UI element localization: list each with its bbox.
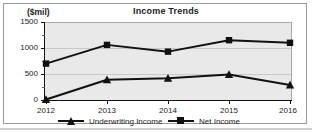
y-tick-mark-1000 xyxy=(41,48,45,49)
bottom-rule xyxy=(0,128,312,130)
chart-screenshot: Income Trends ($mil) 1500 1000 500 0 201… xyxy=(0,0,312,133)
legend-marker-square-icon xyxy=(168,116,194,126)
x-tick-mark-2013 xyxy=(107,101,108,104)
x-tick-label-2016: 2016 xyxy=(273,106,303,115)
y-tick-label-1500: 1500 xyxy=(12,18,38,26)
x-tick-mark-2012 xyxy=(46,101,47,104)
x-tick-mark-2016 xyxy=(290,101,291,104)
x-tick-label-2014: 2014 xyxy=(153,106,183,115)
legend-marker-triangle-icon xyxy=(58,116,84,126)
x-tick-mark-2014 xyxy=(168,101,169,104)
legend-item-net-income: Net Income xyxy=(168,115,240,127)
y-tick-mark-1250 xyxy=(42,35,45,36)
x-tick-label-2015: 2015 xyxy=(214,106,244,115)
x-tick-mark-2015 xyxy=(229,101,230,104)
legend-label-net-income: Net Income xyxy=(199,117,240,126)
y-tick-label-0: 0 xyxy=(12,96,38,104)
legend-label-underwriting-income: Underwriting Income xyxy=(89,117,162,126)
gridline-500 xyxy=(44,74,291,75)
y-tick-mark-250 xyxy=(42,87,45,88)
chart-title: Income Trends xyxy=(96,6,236,16)
x-tick-label-2013: 2013 xyxy=(92,106,122,115)
y-tick-label-500: 500 xyxy=(12,70,38,78)
x-tick-label-2012: 2012 xyxy=(31,106,61,115)
y-tick-mark-1500 xyxy=(41,22,45,23)
y-tick-mark-0 xyxy=(41,100,45,101)
y-tick-label-1000: 1000 xyxy=(12,44,38,52)
chart-legend: Underwriting Income Net Income xyxy=(58,115,258,127)
gridline-1000 xyxy=(44,48,291,49)
y-axis-unit-label: ($mil) xyxy=(27,7,50,17)
y-tick-mark-750 xyxy=(42,61,45,62)
plot-area xyxy=(44,22,292,100)
y-tick-mark-500 xyxy=(41,74,45,75)
legend-item-underwriting-income: Underwriting Income xyxy=(58,115,162,127)
